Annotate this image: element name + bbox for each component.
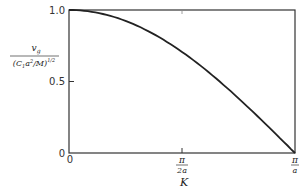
svg-text:a: a xyxy=(293,166,298,175)
svg-text:π: π xyxy=(291,155,299,165)
y-axis-label: vg (C1a2/M)1/2 xyxy=(10,43,59,69)
y-tick-label: 0.5 xyxy=(49,76,65,87)
x-axis-label: K xyxy=(179,176,189,189)
svg-text:π: π xyxy=(178,155,186,165)
y-tick-label: 0 xyxy=(59,148,65,159)
y-tick-label: 1.0 xyxy=(49,5,65,16)
svg-text:(C1a2/M)1/2: (C1a2/M)1/2 xyxy=(13,57,55,69)
chart: 0 0.5 1.0 0 π 2a π a K vg (C1a2/M)1/2 xyxy=(0,0,305,191)
x-tick-label-pi-2a: π 2a xyxy=(176,155,188,175)
plot-frame xyxy=(69,10,295,153)
svg-text:vg: vg xyxy=(32,43,41,55)
x-tick-label-pi-a: π a xyxy=(291,155,299,175)
svg-text:2a: 2a xyxy=(176,166,187,175)
data-line xyxy=(69,10,295,153)
x-tick-label: 0 xyxy=(67,154,73,165)
